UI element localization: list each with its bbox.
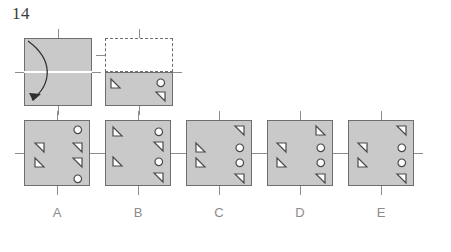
- tick-mark-right: [414, 153, 423, 154]
- tick-mark-bottom: [300, 186, 301, 195]
- option-label-e[interactable]: E: [348, 205, 414, 220]
- hole-triangle-icon: [153, 172, 164, 183]
- tick-mark-top: [57, 111, 58, 120]
- option-label-b[interactable]: B: [105, 205, 171, 220]
- hole-triangle-icon: [396, 125, 407, 136]
- hole-triangle-icon: [153, 141, 164, 152]
- hole-circle-icon: [316, 143, 326, 153]
- option-a[interactable]: [24, 120, 90, 186]
- option-label-d[interactable]: D: [267, 205, 333, 220]
- hole-triangle-icon: [72, 157, 83, 168]
- tick-mark-bottom: [219, 186, 220, 195]
- tick-mark-bottom: [138, 186, 139, 195]
- option-d[interactable]: [267, 120, 333, 186]
- puzzle-canvas: 14 ABCDE: [0, 0, 451, 252]
- hole-triangle-icon: [234, 125, 245, 136]
- folded-away-half-dashed: [105, 38, 173, 72]
- hole-triangle-icon: [34, 157, 45, 168]
- tick-mark-left: [15, 153, 24, 154]
- hole-circle-icon: [235, 143, 245, 153]
- option-c[interactable]: [186, 120, 252, 186]
- hole-triangle-icon: [34, 142, 45, 153]
- hole-triangle-icon: [112, 126, 123, 137]
- tick-mark-top: [219, 111, 220, 120]
- hole-triangle-icon: [195, 157, 206, 168]
- tick-mark-top: [300, 111, 301, 120]
- option-e[interactable]: [348, 120, 414, 186]
- hole-triangle-icon: [276, 157, 287, 168]
- hole-circle-icon: [154, 127, 164, 137]
- hole-triangle-icon: [396, 173, 407, 184]
- tick-mark-right: [173, 72, 182, 73]
- tick-mark-top: [381, 111, 382, 120]
- tick-mark-left: [177, 153, 186, 154]
- tick-mark-bottom: [381, 186, 382, 195]
- tick-mark-bottom: [57, 186, 58, 195]
- hole-triangle-icon: [315, 173, 326, 184]
- hole-triangle-icon: [110, 78, 121, 89]
- option-b[interactable]: [105, 120, 171, 186]
- tick-mark-top: [139, 29, 140, 38]
- hole-circle-icon: [154, 157, 164, 167]
- hole-triangle-icon: [315, 125, 326, 136]
- hole-triangle-icon: [112, 156, 123, 167]
- hole-triangle-icon: [155, 91, 166, 102]
- hole-triangle-icon: [72, 142, 83, 153]
- hole-circle-icon: [235, 158, 245, 168]
- tick-mark-left: [339, 153, 348, 154]
- hole-circle-icon: [397, 158, 407, 168]
- hole-circle-icon: [156, 78, 166, 88]
- option-label-c[interactable]: C: [186, 205, 252, 220]
- hole-circle-icon: [316, 158, 326, 168]
- tick-mark-top: [138, 111, 139, 120]
- hole-circle-icon: [397, 143, 407, 153]
- hole-triangle-icon: [357, 157, 368, 168]
- tick-mark-left: [258, 153, 267, 154]
- hole-triangle-icon: [276, 142, 287, 153]
- hole-circle-icon: [73, 174, 83, 184]
- hole-circle-icon: [73, 125, 83, 135]
- tick-mark-left: [96, 55, 105, 56]
- tick-mark-left: [96, 153, 105, 154]
- hole-triangle-icon: [357, 142, 368, 153]
- folded-sheet-visible-half: [105, 72, 173, 106]
- hole-triangle-icon: [234, 173, 245, 184]
- hole-triangle-icon: [195, 142, 206, 153]
- option-label-a[interactable]: A: [24, 205, 90, 220]
